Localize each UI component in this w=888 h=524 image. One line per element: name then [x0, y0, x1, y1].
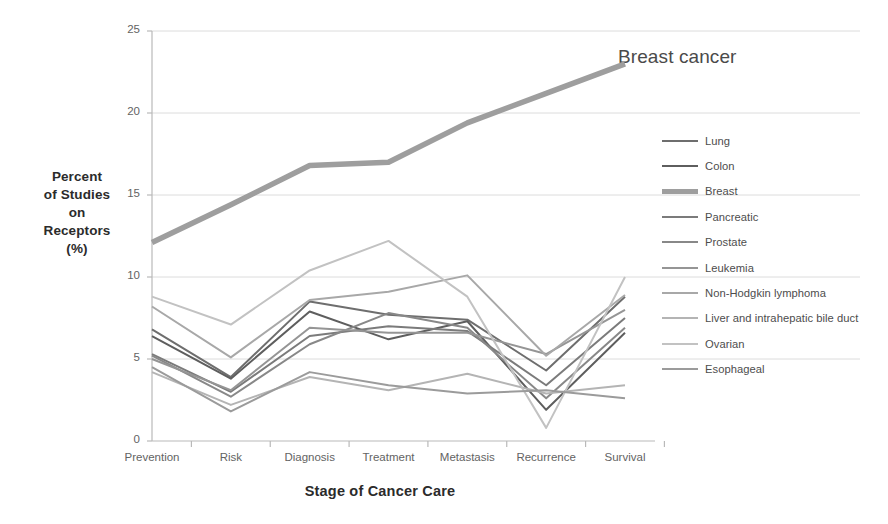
legend-label: Colon	[705, 160, 734, 172]
legend-swatch-icon	[662, 292, 698, 294]
legend-swatch-icon	[662, 189, 698, 195]
legend-swatch-icon	[662, 216, 698, 218]
legend-swatch-icon	[662, 267, 698, 269]
legend-item-pancreatic[interactable]: Pancreatic	[662, 204, 886, 229]
legend-swatch-icon	[662, 140, 698, 142]
legend-label: Prostate	[705, 236, 747, 248]
series-line-lung	[152, 297, 625, 377]
series-line-ovarian	[152, 241, 625, 428]
legend-item-breast[interactable]: Breast	[662, 179, 886, 204]
legend-label: Liver and intrahepatic bile duct	[705, 312, 858, 324]
legend-swatch-icon	[662, 165, 698, 167]
legend-item-esophageal[interactable]: Esophageal	[662, 357, 886, 382]
legend-label: Ovarian	[705, 338, 745, 350]
series-line-pancreatic	[152, 318, 625, 392]
axis-lines	[147, 31, 664, 447]
legend-label: Non-Hodgkin lymphoma	[705, 287, 826, 299]
legend-swatch-icon	[662, 343, 698, 345]
series-line-non-hodgkin-lymphoma	[152, 275, 625, 357]
legend-label: Pancreatic	[705, 211, 758, 223]
legend-item-prostate[interactable]: Prostate	[662, 230, 886, 255]
legend-label: Leukemia	[705, 262, 754, 274]
legend-label: Lung	[705, 135, 730, 147]
legend-item-liver-and-intrahepatic-bile-duct[interactable]: Liver and intrahepatic bile duct	[662, 306, 886, 331]
legend: LungColonBreastPancreaticProstateLeukemi…	[662, 128, 886, 382]
legend-label: Esophageal	[705, 363, 765, 375]
legend-item-ovarian[interactable]: Ovarian	[662, 331, 886, 356]
legend-swatch-icon	[662, 368, 698, 370]
chart-figure: Percent of Studies on Receptors (%) Stag…	[0, 0, 888, 524]
legend-item-non-hodgkin-lymphoma[interactable]: Non-Hodgkin lymphoma	[662, 280, 886, 305]
series-line-breast	[152, 64, 625, 243]
legend-item-colon[interactable]: Colon	[662, 153, 886, 178]
legend-swatch-icon	[662, 241, 698, 243]
legend-label: Breast	[705, 185, 738, 197]
legend-swatch-icon	[662, 317, 698, 319]
legend-item-lung[interactable]: Lung	[662, 128, 886, 153]
series-lines	[152, 64, 625, 428]
legend-item-leukemia[interactable]: Leukemia	[662, 255, 886, 280]
